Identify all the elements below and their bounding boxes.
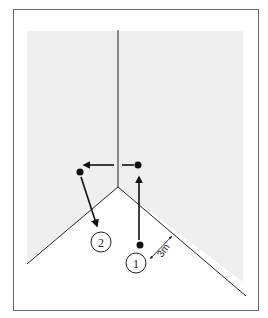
turn-dot-right — [135, 162, 142, 169]
distance-label: 3m — [155, 241, 172, 259]
position-2-marker: 2 — [91, 232, 111, 252]
position-1-marker: 1 — [126, 253, 146, 273]
turn-dot-left — [77, 169, 84, 176]
wall-shading — [27, 31, 243, 282]
position-2-label: 2 — [98, 236, 104, 250]
corner-diagram: 2 1 3m — [0, 0, 268, 318]
position-1-label: 1 — [133, 257, 139, 271]
start-dot — [137, 242, 144, 249]
